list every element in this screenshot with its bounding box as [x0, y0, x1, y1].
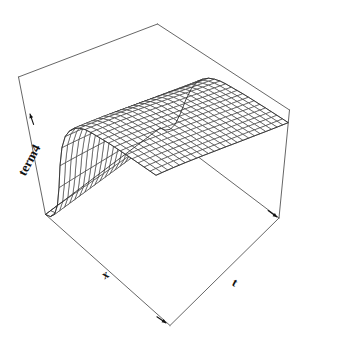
box-edge-floor-t-front	[170, 218, 279, 326]
surface-plot-figure: term4 x t	[0, 0, 340, 340]
t-axis-label: t	[230, 275, 240, 289]
plot-canvas: term4 x t	[0, 0, 340, 340]
surface-mesh	[46, 78, 289, 216]
z-axis-label: term4	[15, 141, 44, 178]
z-axis-label-text: term4	[15, 141, 44, 178]
bounding-box	[19, 24, 290, 326]
x-axis-label: x	[99, 267, 111, 282]
box-edge-vertical-right	[279, 110, 290, 218]
t-axis-label-text: t	[230, 275, 240, 289]
box-edge-floor-x-front	[46, 215, 171, 326]
x-axis-label-text: x	[99, 267, 111, 282]
z-axis-arrow-head	[29, 114, 33, 118]
box-edge-ceiling-x-back	[19, 24, 158, 77]
